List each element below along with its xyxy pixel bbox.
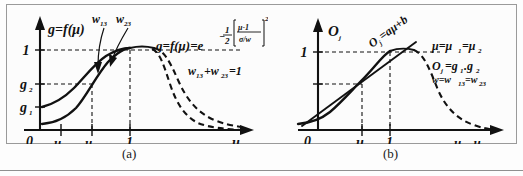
panel-b-note-3: w=w 13 =w 23 xyxy=(432,74,487,88)
caption-b: (b) xyxy=(383,146,398,162)
tangent-equation-label: O j =aμ+b xyxy=(366,12,412,52)
panel-b-note-2: O j =g 1 .g 2 xyxy=(432,59,480,75)
svg-text:13: 13 xyxy=(196,72,204,80)
svg-text:g=f(μ)=e: g=f(μ)=e xyxy=(155,38,204,53)
panel-b-y-axis-label: O j xyxy=(328,23,341,42)
panel-a-equation: g=f(μ)=e − 1 2 μ-1 σ/w 2 xyxy=(155,15,268,53)
panel-a-ytick-g1: g 1 xyxy=(19,100,33,117)
svg-text:σ/w: σ/w xyxy=(239,35,252,44)
panel-a: g=f(μ) μ 1 g 2 g 1 0 μ 1 μ 2 1 xyxy=(6,4,268,144)
label-w23: w 23 xyxy=(116,12,132,28)
svg-text:μ-1: μ-1 xyxy=(237,23,249,32)
caption-a: (a) xyxy=(122,146,136,162)
svg-text:23: 23 xyxy=(478,80,487,88)
panel-b-x-axis-label: μ 1 , μ 2 xyxy=(453,135,487,144)
svg-text:O: O xyxy=(432,59,441,73)
svg-text:w=w: w=w xyxy=(432,74,451,85)
panel-a-ytick-1: 1 xyxy=(23,43,30,58)
panel-a-xtick-mu1: μ 1 xyxy=(53,135,67,144)
panel-a-x-axis xyxy=(24,125,254,135)
svg-text:g: g xyxy=(19,100,27,115)
svg-text:=aμ+b: =aμ+b xyxy=(376,12,410,42)
svg-text:μ: μ xyxy=(453,135,461,144)
svg-text:O: O xyxy=(328,23,339,39)
svg-text:2: 2 xyxy=(224,36,230,46)
panel-b-origin: 0 xyxy=(304,134,311,144)
svg-text:μ: μ xyxy=(84,135,92,144)
svg-text:.g: .g xyxy=(464,59,473,73)
svg-text:+w: +w xyxy=(204,64,220,78)
curve-oj xyxy=(298,51,390,124)
label-w13: w 13 xyxy=(92,12,108,28)
svg-text:μ: μ xyxy=(53,135,61,144)
svg-text:=w: =w xyxy=(465,74,478,85)
svg-text:=μ: =μ xyxy=(462,39,476,53)
svg-text:2: 2 xyxy=(28,86,33,94)
svg-text:23: 23 xyxy=(220,72,229,80)
svg-text:1: 1 xyxy=(458,47,462,55)
panel-a-xtick-one: 1 xyxy=(126,135,133,144)
svg-text:23: 23 xyxy=(123,20,132,28)
panel-b-xtick-mu: μ xyxy=(355,135,364,144)
panel-a-x-axis-label: μ xyxy=(231,135,240,144)
gauss-tail-2 xyxy=(152,49,242,130)
svg-text:1: 1 xyxy=(29,109,33,117)
panel-b-ytick-1: 1 xyxy=(301,45,308,60)
figure-container: g=f(μ) μ 1 g 2 g 1 0 μ 1 μ 2 1 xyxy=(0,0,523,176)
svg-text:g: g xyxy=(19,77,27,92)
svg-text:2: 2 xyxy=(477,47,482,55)
curve-crest xyxy=(130,47,154,49)
panel-a-ytick-g2: g 2 xyxy=(19,77,33,94)
svg-text:μ=μ: μ=μ xyxy=(431,39,453,53)
gauss-tail-1 xyxy=(154,48,242,127)
svg-text:1: 1 xyxy=(225,25,230,35)
panel-b-x-axis xyxy=(298,125,504,135)
svg-text:13: 13 xyxy=(100,20,108,28)
curve-w13 xyxy=(42,48,130,107)
panel-a-y-axis xyxy=(35,16,45,130)
panel-b-note-1: μ=μ 1 =μ 2 xyxy=(431,39,482,55)
figure-divider xyxy=(0,170,523,171)
svg-text:=1: =1 xyxy=(229,64,242,78)
svg-text:=g: =g xyxy=(445,59,458,73)
panel-b: O j μ 1 , μ 2 1 0 μ 1 O j =aμ+b μ=μ xyxy=(268,4,517,144)
panel-a-xtick-mu2: μ 2 xyxy=(84,135,98,144)
panel-b-xtick-one: 1 xyxy=(386,135,393,144)
panel-a-origin: 0 xyxy=(26,134,33,144)
panel-a-y-axis-label: g=f(μ) xyxy=(47,22,85,38)
svg-text:, μ: , μ xyxy=(466,135,481,144)
panel-b-crest xyxy=(390,49,414,51)
curve-w23 xyxy=(42,48,130,124)
svg-text:j: j xyxy=(338,34,341,42)
panel-b-guides xyxy=(318,52,440,130)
panel-a-constraint: w 13 +w 23 =1 xyxy=(188,64,242,80)
svg-text:1: 1 xyxy=(460,67,464,75)
